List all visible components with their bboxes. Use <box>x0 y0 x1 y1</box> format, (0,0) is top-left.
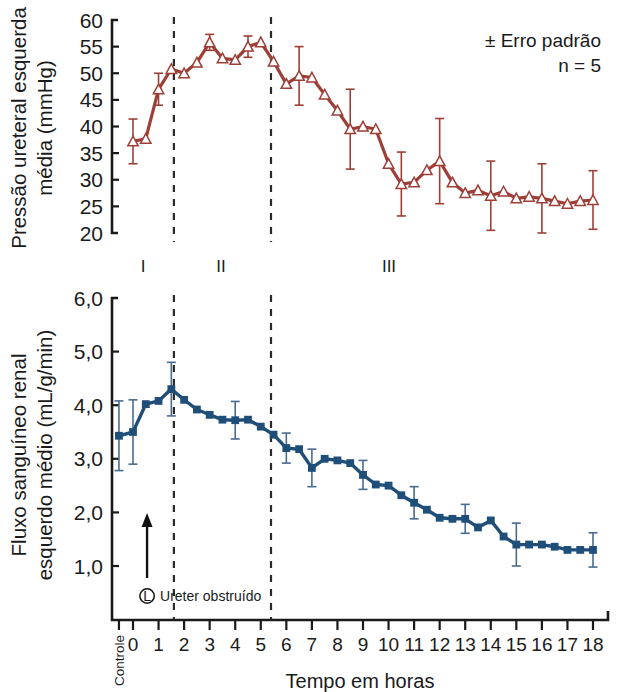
flow-data-marker <box>589 546 597 554</box>
flow-data-marker <box>487 517 495 525</box>
flow-data-marker <box>115 432 123 440</box>
pressure-y-tick-label: 45 <box>80 88 103 111</box>
flow-y-axis-title-line2: esquerdo médio (mL/g/min) <box>33 330 56 581</box>
flow-data-marker <box>142 400 150 408</box>
flow-data-marker <box>512 541 520 549</box>
ureter-arrow-head <box>142 513 153 527</box>
phase-label-2: II <box>216 257 225 276</box>
phase-label-1: I <box>141 257 146 276</box>
flow-data-marker <box>129 428 137 436</box>
x-tick-label: 16 <box>531 634 552 655</box>
flow-data-marker <box>551 543 559 551</box>
flow-data-marker <box>167 385 175 393</box>
legend-n-note: n = 5 <box>558 55 601 76</box>
flow-y-tick-label: 6,0 <box>74 287 103 310</box>
flow-data-marker <box>334 457 342 465</box>
flow-data-marker <box>180 396 188 404</box>
pressure-y-tick-label: 40 <box>80 115 103 138</box>
figure-root: 202530354045505560± Erro padrãon = 5Pres… <box>0 0 621 692</box>
flow-data-marker <box>538 541 546 549</box>
flow-data-marker <box>219 416 227 424</box>
x-tick-label: 9 <box>358 634 369 655</box>
flow-data-marker <box>295 445 303 453</box>
pressure-y-tick-label: 50 <box>80 62 103 85</box>
flow-data-marker <box>308 464 316 472</box>
x-tick-label: 0 <box>128 634 139 655</box>
x-tick-label: 12 <box>429 634 450 655</box>
flow-data-marker <box>449 515 457 523</box>
flow-y-axis-title-line1: Fluxo sanguíneo renal <box>7 354 30 557</box>
chart-svg: 202530354045505560± Erro padrãon = 5Pres… <box>0 0 621 692</box>
flow-data-marker <box>410 499 418 507</box>
x-tick-label: 6 <box>281 634 292 655</box>
flow-data-marker <box>564 546 572 554</box>
pressure-data-marker <box>383 159 393 169</box>
x-tick-label: 3 <box>204 634 215 655</box>
x-tick-label: 8 <box>332 634 343 655</box>
flow-data-marker <box>500 533 508 541</box>
flow-data-marker <box>461 515 469 523</box>
pressure-data-marker <box>204 37 214 47</box>
flow-series-line <box>119 389 593 550</box>
pressure-y-tick-label: 55 <box>80 35 103 58</box>
pressure-y-tick-label: 35 <box>80 142 103 165</box>
flow-data-marker <box>231 416 239 424</box>
x-axis-title: Tempo em horas <box>286 670 435 692</box>
flow-data-marker <box>257 423 265 431</box>
x-tick-label: 10 <box>378 634 399 655</box>
pressure-y-tick-label: 60 <box>80 9 103 32</box>
legend-error-note: ± Erro padrão <box>485 30 601 51</box>
pressure-y-tick-label: 20 <box>80 222 103 245</box>
flow-data-marker <box>346 459 354 467</box>
x-tick-label: 4 <box>230 634 241 655</box>
x-tick-label: 1 <box>153 634 164 655</box>
x-tick-label: 7 <box>307 634 318 655</box>
flow-data-marker <box>385 482 393 490</box>
flow-data-marker <box>525 541 533 549</box>
flow-data-marker <box>359 471 367 479</box>
flow-data-marker <box>282 444 290 452</box>
x-tick-label: 5 <box>255 634 266 655</box>
flow-data-marker <box>244 416 252 424</box>
flow-y-tick-label: 5,0 <box>74 340 103 363</box>
flow-data-marker <box>576 546 584 554</box>
x-tick-label: 13 <box>455 634 476 655</box>
flow-data-marker <box>474 524 482 532</box>
ureter-symbol-letter: L <box>143 588 151 604</box>
flow-data-marker <box>193 406 201 414</box>
x-tick-label: 17 <box>557 634 578 655</box>
flow-y-tick-label: 1,0 <box>74 555 103 578</box>
flow-y-tick-label: 3,0 <box>74 447 103 470</box>
flow-y-tick-label: 4,0 <box>74 394 103 417</box>
flow-data-marker <box>321 455 329 463</box>
pressure-y-tick-label: 30 <box>80 168 103 191</box>
phase-label-3: III <box>382 257 396 276</box>
x-tick-label: 18 <box>582 634 603 655</box>
x-tick-label: 2 <box>179 634 190 655</box>
ureter-annotation-label: Ureter obstruído <box>160 588 261 604</box>
x-tick-label: 15 <box>506 634 527 655</box>
flow-data-marker <box>436 514 444 522</box>
pressure-y-tick-label: 25 <box>80 195 103 218</box>
pressure-data-marker <box>434 156 444 166</box>
flow-data-marker <box>206 411 214 419</box>
flow-axes-spine <box>112 298 608 620</box>
pressure-y-axis-title-line2: média (mmHg) <box>33 60 56 196</box>
x-tick-label: 11 <box>404 634 424 655</box>
flow-y-tick-label: 2,0 <box>74 501 103 524</box>
pressure-y-axis-title-line1: Pressão ureteral esquerda <box>7 7 30 249</box>
flow-data-marker <box>372 481 380 489</box>
flow-data-marker <box>155 397 163 405</box>
flow-data-marker <box>270 431 278 439</box>
x-tick-label-controle: Controle <box>112 635 127 686</box>
flow-data-marker <box>423 506 431 514</box>
x-tick-label: 14 <box>480 634 502 655</box>
flow-data-marker <box>397 491 405 499</box>
